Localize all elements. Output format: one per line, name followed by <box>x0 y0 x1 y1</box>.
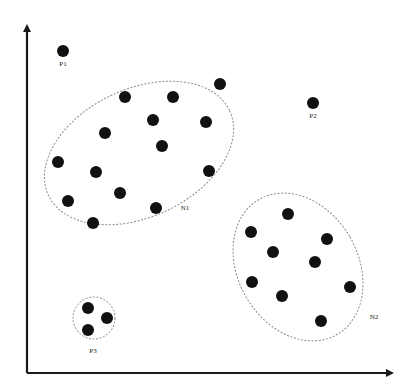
data-point <box>267 246 279 258</box>
data-point <box>82 302 94 314</box>
data-point <box>62 195 74 207</box>
data-point <box>246 276 258 288</box>
data-point <box>114 187 126 199</box>
data-point <box>167 91 179 103</box>
data-point <box>214 78 226 90</box>
data-point <box>203 165 215 177</box>
data-point <box>82 324 94 336</box>
clusters: N1N2P3 <box>21 53 389 365</box>
data-point <box>156 140 168 152</box>
cluster-label: N1 <box>181 204 190 212</box>
data-point <box>119 91 131 103</box>
data-point <box>315 315 327 327</box>
data-point <box>309 256 321 268</box>
outlier-label: P2 <box>309 112 317 120</box>
data-point <box>200 116 212 128</box>
cluster-label: N2 <box>370 313 379 321</box>
outlier-p1: P1 <box>57 45 69 68</box>
outlier-label: P1 <box>59 60 67 68</box>
data-point <box>282 208 294 220</box>
data-point <box>276 290 288 302</box>
data-point <box>245 226 257 238</box>
cluster-n2: N2 <box>207 169 389 364</box>
cluster-n1: N1 <box>21 53 256 254</box>
outlier-point <box>57 45 69 57</box>
outlier-p2: P2 <box>307 97 319 120</box>
data-point <box>99 127 111 139</box>
cluster-diagram: N1N2P3 P1P2 <box>0 0 406 391</box>
data-point <box>87 217 99 229</box>
data-point <box>147 114 159 126</box>
data-point <box>52 156 64 168</box>
data-point <box>90 166 102 178</box>
data-point <box>101 312 113 324</box>
axes <box>27 26 392 373</box>
cluster-boundary <box>207 169 389 364</box>
data-point <box>321 233 333 245</box>
data-point <box>344 281 356 293</box>
cluster-p3: P3 <box>73 297 115 355</box>
data-point <box>150 202 162 214</box>
outlier-point <box>307 97 319 109</box>
cluster-label: P3 <box>89 347 97 355</box>
